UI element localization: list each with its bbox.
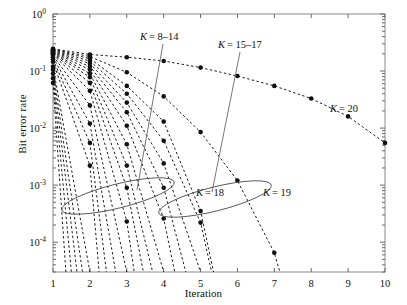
data-point	[198, 130, 203, 135]
data-point	[88, 121, 93, 126]
data-point	[198, 65, 203, 70]
series-line	[53, 50, 212, 272]
chart-canvas: 1234567891010010-110-210-310-4 K= 8–14K=…	[0, 0, 407, 305]
y-tick-label: 10-4	[29, 235, 46, 248]
data-point	[88, 52, 93, 57]
data-point	[125, 55, 130, 60]
data-point	[125, 185, 130, 190]
data-point	[161, 138, 166, 143]
figure: Bit error rate Iteration 123456789101001…	[0, 0, 407, 305]
data-point	[161, 185, 166, 190]
series-line	[53, 49, 280, 272]
data-point	[88, 103, 93, 108]
data-point	[125, 219, 130, 224]
y-tick-label: 100	[32, 7, 47, 20]
data-point	[125, 123, 130, 128]
data-point	[88, 141, 93, 146]
data-point	[272, 84, 277, 89]
x-tick-label: 8	[309, 278, 314, 289]
data-point	[125, 142, 130, 147]
y-tick-label: 10-1	[29, 64, 46, 77]
annotation-leader-line	[137, 44, 163, 190]
x-tick-label: 3	[124, 278, 129, 289]
y-tick-label: 10-2	[29, 121, 46, 134]
data-point	[125, 84, 130, 89]
data-point	[88, 89, 93, 94]
y-tick-label: 10-3	[29, 178, 46, 191]
series-line	[53, 50, 214, 272]
data-point	[346, 114, 351, 119]
series-annotation-label: K= 8–14	[139, 31, 179, 42]
data-point	[161, 59, 166, 64]
series-annotation-label: K= 15–17	[217, 39, 262, 50]
data-point	[125, 70, 130, 75]
data-point	[383, 141, 388, 146]
annotation-layer: K= 8–14K= 15–17K= 18K= 19K= 20	[137, 31, 358, 198]
data-point	[125, 91, 130, 96]
data-point	[161, 119, 166, 124]
data-point	[51, 47, 56, 52]
series-annotation-label: K= 20	[329, 103, 358, 114]
x-tick-label: 5	[198, 278, 203, 289]
x-tick-label: 1	[50, 278, 55, 289]
series-line	[53, 70, 83, 272]
data-point	[309, 96, 314, 101]
series-line	[53, 52, 175, 272]
data-point	[161, 161, 166, 166]
series-line	[53, 62, 99, 272]
data-point	[125, 110, 130, 115]
x-tick-label: 10	[380, 278, 391, 289]
x-tick-label: 4	[161, 278, 167, 289]
x-tick-label: 2	[87, 278, 92, 289]
data-point	[125, 100, 130, 105]
x-tick-label: 9	[345, 278, 350, 289]
x-tick-label: 6	[235, 278, 240, 289]
data-point	[198, 209, 203, 214]
x-tick-label: 7	[272, 278, 277, 289]
data-point	[161, 94, 166, 99]
series-line	[53, 49, 385, 143]
series-annotation-label: K= 18	[195, 187, 224, 198]
data-point	[272, 251, 277, 256]
series-annotation-label: K= 19	[262, 187, 291, 198]
series-line	[53, 54, 143, 272]
data-point	[125, 163, 130, 168]
data-point	[88, 163, 93, 168]
